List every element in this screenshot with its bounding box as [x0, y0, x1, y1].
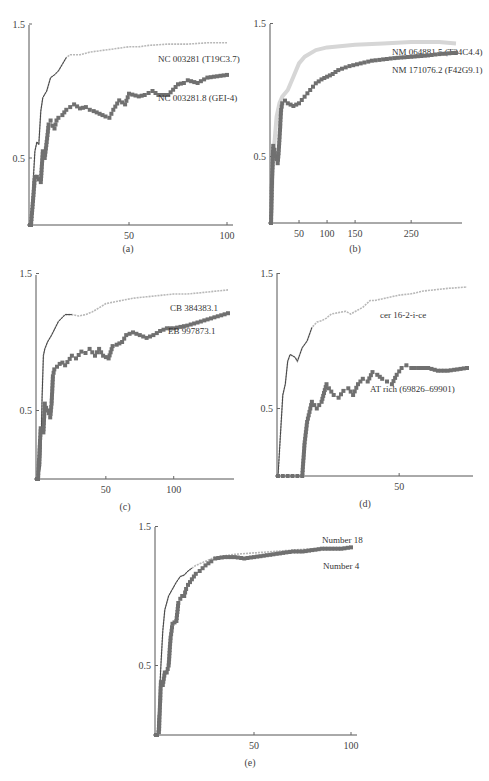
data-marker — [143, 93, 147, 97]
y-tick-label: 1.5 — [20, 268, 33, 279]
data-marker — [426, 53, 430, 57]
data-marker — [366, 60, 370, 64]
data-marker — [212, 315, 216, 319]
y-tick-label: 0.5 — [139, 660, 152, 671]
data-marker — [351, 393, 355, 397]
data-marker — [341, 389, 345, 393]
data-marker — [88, 108, 92, 112]
x-tick-label: 50 — [249, 740, 259, 751]
data-marker — [209, 559, 213, 563]
data-marker — [104, 115, 108, 119]
series-label: Number 4 — [323, 561, 360, 571]
data-marker — [84, 105, 88, 109]
data-marker — [271, 144, 275, 148]
panel-d: 0.51.550cer 16-2-i-ceAT rich (69826–6990… — [261, 268, 474, 510]
series-label: NC 003281.8 (GEI-4) — [158, 93, 237, 103]
data-marker — [166, 667, 170, 671]
data-marker — [107, 116, 111, 120]
data-marker — [385, 380, 389, 384]
y-tick-label: 1.5 — [261, 268, 274, 279]
series-line — [38, 313, 228, 479]
data-marker — [337, 396, 341, 400]
data-marker — [381, 57, 385, 61]
panel-a: 0.51.550100NC 003281 (T19C3.7)NC 003281.… — [13, 19, 240, 256]
data-marker — [49, 119, 53, 123]
x-tick-label: 50 — [101, 484, 111, 495]
x-tick-label: 50 — [124, 230, 134, 241]
data-marker — [182, 594, 186, 598]
data-marker — [182, 81, 186, 85]
data-marker — [370, 59, 374, 63]
data-marker — [194, 572, 198, 576]
series-label: Number 18 — [322, 535, 363, 545]
data-marker — [286, 474, 290, 478]
y-tick-label: 1.5 — [254, 18, 267, 29]
data-marker — [325, 382, 329, 386]
data-marker — [392, 56, 396, 60]
data-marker — [64, 108, 68, 112]
data-marker — [176, 601, 180, 605]
data-marker — [141, 335, 145, 339]
series-line-start — [278, 328, 312, 477]
data-marker — [361, 377, 365, 381]
data-marker — [111, 344, 115, 348]
data-marker — [336, 68, 340, 72]
data-marker — [295, 474, 299, 478]
data-marker — [340, 67, 344, 71]
data-marker — [291, 474, 295, 478]
panel-caption: (b) — [349, 243, 361, 255]
data-marker — [344, 65, 348, 69]
y-tick-label: 0.5 — [261, 403, 274, 414]
panel-b: 0.51.550100150250NM 064881.5 (T24C4.4)NM… — [254, 18, 483, 255]
data-marker — [348, 64, 352, 68]
data-marker — [165, 671, 169, 675]
series-label: EB 997873.1 — [168, 326, 216, 336]
x-tick-label: 250 — [404, 228, 419, 239]
panel-caption: (d) — [359, 498, 371, 510]
data-marker — [359, 61, 363, 65]
data-marker — [389, 57, 393, 61]
y-tick-label: 0.5 — [13, 153, 26, 164]
data-marker — [377, 58, 381, 62]
figure: 0.51.550100NC 003281 (T19C3.7)NC 003281.… — [0, 0, 489, 781]
series-label: NC 003281 (T19C3.7) — [158, 54, 240, 64]
data-marker — [354, 386, 358, 390]
data-marker — [93, 354, 97, 358]
series-line — [157, 547, 351, 735]
panel-caption: (c) — [119, 501, 130, 513]
data-marker — [90, 350, 94, 354]
data-marker — [56, 116, 60, 120]
data-marker — [380, 377, 384, 381]
data-marker — [54, 123, 58, 127]
data-marker — [371, 370, 375, 374]
series-line — [157, 547, 351, 735]
data-marker — [84, 351, 88, 355]
panel-caption: (e) — [244, 757, 255, 769]
data-marker — [278, 135, 282, 139]
x-tick-label: 100 — [166, 484, 181, 495]
data-marker — [355, 62, 359, 66]
data-marker — [219, 313, 223, 317]
data-marker — [169, 636, 173, 640]
data-marker — [68, 105, 72, 109]
data-marker — [332, 393, 336, 397]
data-marker — [199, 320, 203, 324]
data-marker — [406, 55, 410, 59]
data-marker — [400, 366, 404, 370]
data-marker — [404, 363, 408, 367]
data-marker — [170, 629, 174, 633]
x-tick-label: 50 — [294, 228, 304, 239]
data-marker — [385, 57, 389, 61]
series-line — [271, 53, 456, 223]
series-label: AT rich (69826–69901) — [370, 384, 455, 394]
data-marker — [409, 366, 413, 370]
data-marker — [134, 332, 138, 336]
data-marker — [46, 126, 50, 130]
series-label: NM 171076.2 (F42G9.1) — [392, 65, 483, 75]
data-marker — [122, 337, 126, 341]
data-marker — [53, 127, 57, 131]
data-marker — [79, 350, 83, 354]
data-marker — [433, 53, 437, 57]
data-marker — [124, 99, 128, 103]
data-marker — [46, 130, 50, 134]
